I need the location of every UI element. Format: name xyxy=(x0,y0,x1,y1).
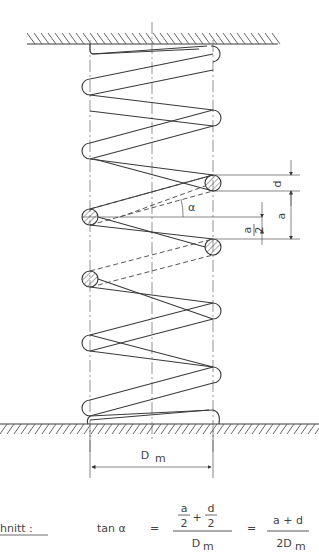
frac2-den: 2D xyxy=(276,537,291,550)
alpha-label: α xyxy=(188,201,195,214)
hatch-line xyxy=(224,424,231,434)
hatch-line xyxy=(0,424,7,434)
hatch-line xyxy=(266,424,273,434)
hatch-line xyxy=(104,33,112,44)
coil-segment xyxy=(90,287,213,303)
hatch-line xyxy=(182,424,189,434)
hatch-line xyxy=(56,424,63,434)
coil-segment xyxy=(92,46,207,54)
hatch-line xyxy=(119,424,126,434)
coil-segment xyxy=(90,351,213,367)
hatch-line xyxy=(133,424,140,434)
equals-1: = xyxy=(150,522,159,535)
d-label: d xyxy=(271,181,284,188)
coil-segment xyxy=(90,110,213,143)
coil-segment xyxy=(98,217,205,247)
formula: hnitt : tan α = a 2 + d 2 D m = a + d 2D… xyxy=(0,502,309,553)
hatch-line xyxy=(294,424,301,434)
frac2-num: a + d xyxy=(273,514,303,527)
hatch-line xyxy=(174,33,182,44)
coil-segment xyxy=(82,79,90,95)
tan-alpha: tan α xyxy=(97,522,126,535)
hatch-line xyxy=(112,424,119,434)
hatch-line xyxy=(147,424,154,434)
hatch-line xyxy=(237,33,245,44)
dm-label: D xyxy=(141,449,149,462)
hatch-line xyxy=(105,424,112,434)
hatch-line xyxy=(90,33,98,44)
hatch-line xyxy=(55,33,63,44)
hatch-line xyxy=(308,424,315,434)
coil-segment xyxy=(213,110,221,126)
plus-sign: + xyxy=(192,511,201,524)
hatch-line xyxy=(181,33,189,44)
a-half-denominator: 2 xyxy=(253,227,266,234)
hatch-line xyxy=(69,33,77,44)
hatch-line xyxy=(63,424,70,434)
hatch-line xyxy=(301,424,308,434)
hatch-line xyxy=(27,33,35,44)
hatch-line xyxy=(188,33,196,44)
frac1-a-den: 2 xyxy=(181,517,188,530)
hatch-line xyxy=(231,424,238,434)
hatch-line xyxy=(258,33,266,44)
hatch-line xyxy=(14,424,21,434)
coil-segment xyxy=(98,279,213,319)
coil-segment xyxy=(90,367,213,400)
hatch-line xyxy=(118,33,126,44)
hatch-line xyxy=(217,424,224,434)
coil-segment xyxy=(87,416,90,424)
hatch-line xyxy=(76,33,84,44)
hatch-line xyxy=(238,424,245,434)
frac1-den: D xyxy=(192,537,200,550)
dimension-d: d xyxy=(213,160,300,206)
bottom-wall xyxy=(0,424,319,434)
hatch-line xyxy=(167,33,175,44)
hatch-line xyxy=(189,424,196,434)
hatch-line xyxy=(28,424,35,434)
coil-segment xyxy=(90,159,213,175)
hatch-line xyxy=(153,33,161,44)
coil-segment xyxy=(90,319,213,351)
dimension-a-half: a 2 xyxy=(241,202,266,245)
alpha-arc xyxy=(181,199,183,217)
hatch-line xyxy=(175,424,182,434)
hatch-line xyxy=(62,33,70,44)
hatch-line xyxy=(265,33,273,44)
frac1-den-sub: m xyxy=(203,540,214,553)
hatch-line xyxy=(272,33,280,44)
hatch-line xyxy=(146,33,154,44)
coil-segment xyxy=(213,303,221,319)
hatch-line xyxy=(154,424,161,434)
coil-segment xyxy=(90,126,213,159)
wire-section-1 xyxy=(205,175,221,191)
coil-segment xyxy=(213,367,221,383)
coil-segment xyxy=(90,303,213,335)
hatch-line xyxy=(42,424,49,434)
hatch-line xyxy=(35,424,42,434)
hatch-line xyxy=(259,424,266,434)
coil-segment xyxy=(82,335,90,351)
hatch-line xyxy=(126,424,133,434)
spring-diagram: α d a a 2 D m hnitt : tan α = xyxy=(0,0,319,554)
coil-segment xyxy=(213,410,219,424)
frac1-d: d xyxy=(208,502,215,515)
hatch-line xyxy=(132,33,140,44)
hatch-line xyxy=(230,33,238,44)
a-label: a xyxy=(275,213,288,220)
hatch-line xyxy=(34,33,42,44)
coil-segment xyxy=(90,54,213,79)
hatch-line xyxy=(168,424,175,434)
hatch-line xyxy=(315,424,319,434)
wire-section-3 xyxy=(205,239,221,255)
hatch-line xyxy=(202,33,210,44)
hatch-line xyxy=(41,33,49,44)
coil-segment xyxy=(90,95,213,110)
hatch-line xyxy=(160,33,168,44)
hatch-line xyxy=(287,424,294,434)
frac1-a: a xyxy=(181,502,188,515)
hatch-line xyxy=(252,424,259,434)
hatch-line xyxy=(49,424,56,434)
frac1-d-den: 2 xyxy=(208,517,215,530)
hatch-line xyxy=(97,33,105,44)
